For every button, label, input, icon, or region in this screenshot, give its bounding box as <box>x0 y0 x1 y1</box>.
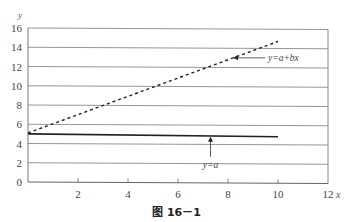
constant-line-solid <box>28 134 278 137</box>
gridline <box>28 105 328 107</box>
y-tick-label: 6 <box>17 118 23 130</box>
y-axis-label: y <box>17 10 22 20</box>
gridline <box>28 47 328 49</box>
x-tick-label: 4 <box>125 188 131 200</box>
gridline <box>28 67 328 69</box>
figure-caption: 图 16－1 <box>0 203 353 219</box>
y-tick-label: 12 <box>11 61 22 73</box>
annotation-label: y=a <box>202 160 219 170</box>
x-tick-label: 10 <box>273 188 285 200</box>
gridline <box>28 28 328 30</box>
annotation-label: y=a+bx <box>267 53 300 63</box>
x-axis-label: x <box>335 189 341 200</box>
gridline <box>28 124 328 126</box>
x-tick-label: 6 <box>175 188 181 200</box>
arrowhead-icon <box>208 137 213 142</box>
data-series <box>28 41 278 136</box>
y-tick-label: 10 <box>11 80 23 92</box>
y-tick-label: 0 <box>17 176 23 188</box>
x-tick-label: 12 <box>323 188 334 200</box>
y-tick-label: 8 <box>17 99 23 111</box>
horizontal-gridlines <box>28 28 328 164</box>
gridline <box>28 144 328 146</box>
regression-chart: 024681012141624681012yx y=a+bxy=a <box>0 0 353 222</box>
y-tick-label: 16 <box>11 22 23 34</box>
x-tick-label: 8 <box>225 188 231 200</box>
gridline <box>28 86 328 88</box>
gridline <box>28 163 328 165</box>
y-tick-label: 14 <box>11 41 23 53</box>
annotations: y=a+bxy=a <box>202 53 300 169</box>
y-tick-label: 4 <box>17 138 23 150</box>
y-tick-label: 2 <box>17 157 23 169</box>
arrowhead-icon <box>233 55 238 60</box>
x-tick-label: 2 <box>75 188 81 200</box>
